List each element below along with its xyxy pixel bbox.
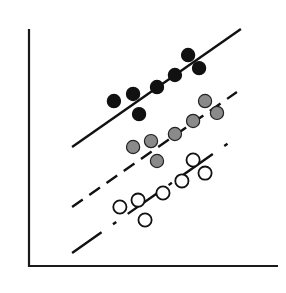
data-point-filled-black [182, 48, 195, 61]
data-point-filled-black [107, 94, 120, 107]
data-point-open-white [131, 194, 144, 207]
data-point-open-white [175, 174, 188, 187]
data-point-open-white [156, 186, 169, 199]
data-point-filled-black [150, 80, 163, 93]
plot-area [0, 0, 286, 293]
data-point-filled-gray [210, 106, 223, 119]
data-points [107, 48, 223, 226]
data-point-filled-gray [198, 94, 211, 107]
data-point-open-white [113, 200, 126, 213]
data-point-open-white [186, 153, 199, 166]
series-filled-black [107, 48, 205, 120]
data-point-filled-black [126, 87, 139, 100]
data-point-filled-black [168, 68, 181, 81]
data-point-filled-gray [150, 154, 163, 167]
scatter-chart [0, 0, 286, 293]
data-point-filled-gray [186, 114, 199, 127]
data-point-open-white [138, 213, 151, 226]
data-point-filled-gray [126, 140, 139, 153]
data-point-filled-gray [144, 135, 157, 148]
data-point-filled-black [132, 107, 145, 120]
data-point-open-white [198, 166, 211, 179]
data-point-filled-black [192, 62, 205, 75]
data-point-filled-gray [168, 127, 181, 140]
